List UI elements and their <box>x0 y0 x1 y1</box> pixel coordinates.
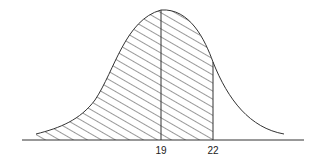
normal-curve-chart <box>0 0 320 163</box>
shaded-region <box>36 10 213 140</box>
tick-label-mean: 19 <box>155 145 166 156</box>
tick-label-bound: 22 <box>207 145 218 156</box>
